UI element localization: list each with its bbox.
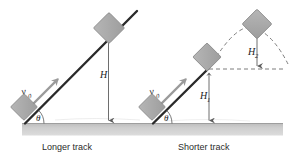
block-top-longer [93, 12, 124, 43]
diagram-canvas: H v 0 θ Longer track [0, 0, 305, 160]
label-H: H [99, 69, 108, 80]
ground-surface [22, 119, 283, 136]
velocity-arrow-shorter [160, 79, 186, 105]
block-launch-shorter [193, 43, 221, 71]
label-theta-shorter: θ [164, 113, 169, 123]
svg-text:1: 1 [207, 96, 210, 103]
svg-text:2: 2 [255, 52, 259, 59]
caption-longer-track: Longer track [42, 142, 93, 152]
label-theta-longer: θ [36, 113, 41, 123]
velocity-arrow-longer [32, 79, 58, 105]
caption-shorter-track: Shorter track [178, 142, 230, 152]
block-apex-shorter [242, 9, 272, 39]
physics-diagram-figure: H v 0 θ Longer track [0, 0, 305, 160]
